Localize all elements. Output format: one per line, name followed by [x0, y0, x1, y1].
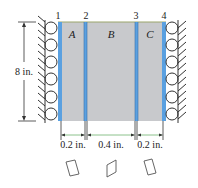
right-roller-support: [166, 22, 178, 120]
region-label-c: C: [146, 28, 154, 40]
left-roller-support: [45, 22, 57, 120]
region-label-a: A: [68, 28, 76, 40]
interface-4: [162, 22, 166, 121]
node-label-1: 1: [56, 10, 61, 21]
width-label-a: 0.2 in.: [60, 139, 85, 150]
width-label-c: 0.2 in.: [137, 139, 162, 150]
interface-2: [84, 22, 87, 121]
width-dimensions: [61, 121, 163, 140]
left-wall-hatch: [38, 16, 45, 123]
node-label-4: 4: [162, 10, 167, 21]
region-label-b: B: [108, 28, 115, 40]
height-label: 8 in.: [15, 66, 33, 77]
parallelogram-element-b-icon: [107, 160, 116, 177]
right-wall-hatch: [178, 20, 186, 123]
width-label-b: 0.4 in.: [98, 139, 123, 150]
parallelogram-element-a-icon: [66, 160, 79, 176]
interface-3: [135, 22, 138, 121]
diagram: 1 2 3 4 A B C: [0, 0, 198, 188]
parallelogram-element-c-icon: [144, 159, 156, 175]
node-label-2: 2: [84, 10, 89, 21]
interface-1: [58, 22, 62, 121]
node-label-3: 3: [134, 10, 139, 21]
